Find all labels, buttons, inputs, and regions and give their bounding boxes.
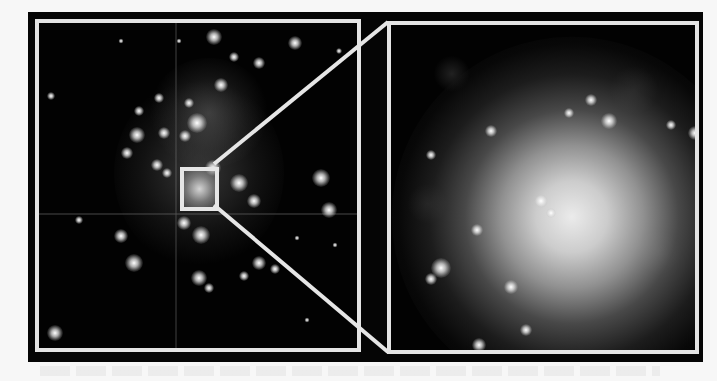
star [121,147,133,159]
star [114,229,128,243]
star [206,29,222,45]
star [472,338,486,352]
star [184,98,194,108]
star [158,127,170,139]
star [504,280,518,294]
star [134,106,144,116]
star [546,208,556,218]
star [177,216,191,230]
star [321,202,337,218]
star [471,224,483,236]
star [75,216,83,224]
star [252,256,266,270]
star [192,226,210,244]
star [336,48,342,54]
star [596,352,612,354]
star [239,271,249,281]
star [204,283,214,293]
star [229,52,239,62]
star [534,194,548,208]
star [129,127,145,143]
star [119,39,124,44]
figure-frame [28,12,703,362]
star [179,130,191,142]
star [585,94,597,106]
star [177,39,182,44]
star [151,159,163,171]
star [154,93,164,103]
star [485,125,497,137]
show-through-text-artifact [40,366,660,376]
star [253,57,265,69]
star [295,236,300,241]
star [426,150,436,160]
star [601,113,617,129]
highlight-box [180,167,219,211]
star [688,126,699,140]
cluster-haze [149,58,269,168]
star [230,174,248,192]
star [312,169,330,187]
star [333,243,338,248]
star [288,36,302,50]
star [270,264,280,274]
star [564,108,574,118]
star [187,113,207,133]
star [520,324,532,336]
star [162,168,172,178]
star [425,273,437,285]
wide-field-panel [35,19,361,352]
star [47,325,63,341]
star [305,318,310,323]
magnified-panel [387,21,699,354]
star [247,194,261,208]
star [47,92,55,100]
star [214,78,228,92]
star [666,120,676,130]
star [125,254,143,272]
